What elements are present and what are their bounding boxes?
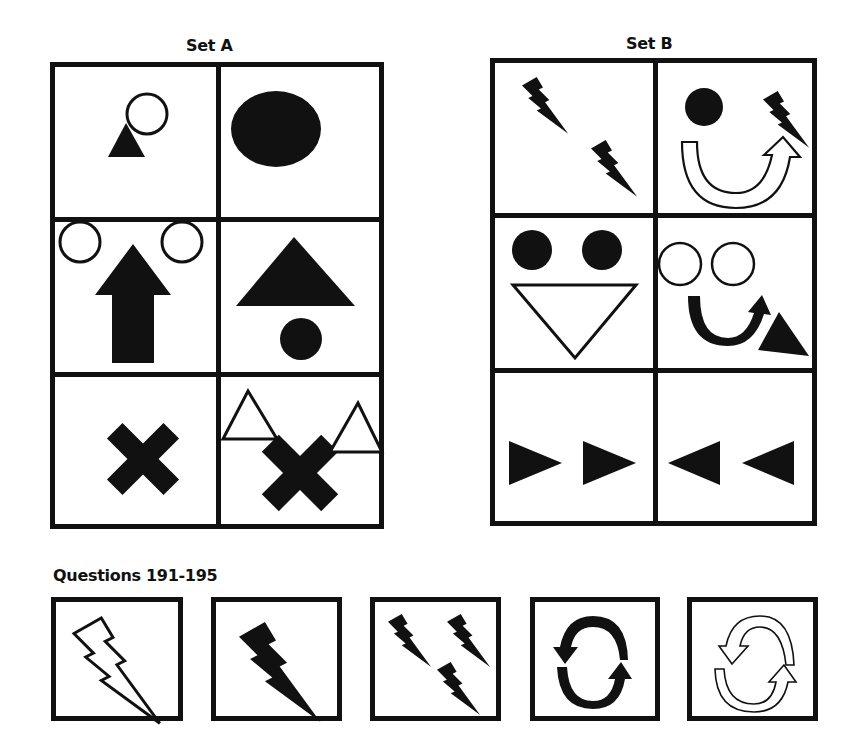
large-filled-triangle-icon [236, 237, 355, 306]
question-option-194[interactable] [530, 597, 660, 721]
set-a-cell-4 [221, 222, 384, 372]
filled-right-triangle-icon [583, 441, 636, 485]
filled-right-triangle-icon [509, 441, 562, 485]
filled-x-cross-icon [86, 402, 199, 515]
set-a-title: Set A [186, 36, 232, 55]
filled-up-arrow-icon [95, 244, 171, 363]
set-a-cell-5 [55, 377, 216, 527]
small-filled-triangle-icon [108, 123, 145, 157]
outline-triangle-icon [223, 391, 277, 439]
outline-circle-icon [127, 94, 167, 134]
set-a-cell-2 [221, 67, 384, 217]
filled-cycle-arrows-icon [535, 602, 655, 716]
outline-triangle-icon [330, 403, 382, 452]
outline-circle-icon [659, 243, 701, 285]
filled-lightning-bolt-icon [388, 614, 431, 667]
questions-title: Questions 191-195 [53, 566, 217, 585]
filled-left-triangle-icon [742, 441, 794, 485]
set-b-cell-6 [658, 373, 817, 523]
filled-circle-icon [280, 318, 322, 360]
large-filled-circle-icon [231, 91, 321, 167]
outline-circle-icon [60, 222, 100, 262]
outline-cycle-arrows-icon [692, 602, 813, 716]
set-a-grid [50, 62, 384, 529]
outline-down-triangle-icon [513, 285, 636, 358]
filled-u-turn-arrow-icon [688, 295, 771, 346]
filled-lightning-bolt-icon [437, 662, 480, 715]
filled-lightning-bolt-icon [239, 622, 320, 722]
outline-u-turn-arrow-icon [682, 137, 800, 208]
set-b-grid [490, 58, 817, 526]
filled-lightning-bolt-icon [447, 614, 490, 667]
set-a-cell-3 [55, 222, 216, 372]
filled-lightning-bolt-icon [591, 140, 637, 197]
outline-lightning-bolt-icon [74, 618, 160, 723]
set-b-cell-2 [658, 63, 817, 213]
question-option-195[interactable] [687, 597, 818, 721]
outline-circle-icon [162, 222, 202, 262]
set-b-cell-5 [495, 373, 653, 523]
question-option-192[interactable] [211, 597, 342, 721]
set-b-title: Set B [626, 34, 672, 53]
set-b-cell-3 [495, 218, 653, 368]
set-b-cell-4 [658, 218, 817, 368]
question-option-193[interactable] [370, 597, 501, 721]
question-option-191[interactable] [51, 597, 183, 721]
filled-left-triangle-icon [668, 441, 720, 485]
set-a-cell-6 [221, 377, 384, 527]
filled-lightning-bolt-icon [522, 77, 568, 134]
filled-triangle-icon [758, 312, 809, 356]
filled-circle-icon [685, 88, 723, 126]
filled-circle-icon [582, 230, 622, 270]
filled-circle-icon [512, 230, 552, 270]
set-b-cell-1 [495, 63, 653, 213]
outline-circle-icon [712, 243, 754, 285]
set-a-cell-1 [55, 67, 216, 217]
